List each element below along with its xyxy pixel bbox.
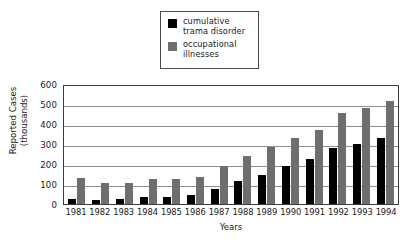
bar <box>211 189 219 204</box>
bar <box>362 108 370 204</box>
x-axis-tick-label: 1994 <box>374 207 398 217</box>
plot-area <box>63 85 399 205</box>
x-axis-tick-label: 1983 <box>112 207 136 217</box>
legend-item-label: occupational illnesses <box>183 40 237 59</box>
x-axis-tick-label: 1991 <box>303 207 327 217</box>
bar-group <box>184 86 208 204</box>
y-axis-tick-label: 500 <box>40 100 57 110</box>
bar <box>68 199 76 204</box>
black-square-icon <box>168 19 177 28</box>
bar-group <box>326 86 350 204</box>
bar <box>306 159 314 204</box>
bar <box>116 199 124 204</box>
bar <box>353 144 361 204</box>
y-axis-tick-label: 0 <box>51 200 57 210</box>
bar-group <box>136 86 160 204</box>
y-axis-tick-label: 600 <box>40 80 57 90</box>
bar-group <box>302 86 326 204</box>
bar-group <box>278 86 302 204</box>
x-axis-tick-label: 1989 <box>255 207 279 217</box>
x-axis-tick-label: 1981 <box>64 207 88 217</box>
x-axis-tick-label: 1982 <box>88 207 112 217</box>
bar-group <box>112 86 136 204</box>
x-axis-tick-label: 1990 <box>279 207 303 217</box>
x-axis-tick-label: 1984 <box>136 207 160 217</box>
x-axis-tick-label: 1988 <box>231 207 255 217</box>
bar <box>125 183 133 204</box>
legend-item-label: cumulative trama disorder <box>183 17 245 36</box>
legend-item-cumulative-trama-disorder: cumulative trama disorder <box>168 17 258 36</box>
bar <box>172 179 180 204</box>
bar <box>234 181 242 204</box>
bar-group <box>350 86 374 204</box>
y-axis-tick-label: 400 <box>40 120 57 130</box>
bar <box>338 113 346 204</box>
x-axis-label: Years <box>63 222 399 232</box>
bar <box>315 130 323 204</box>
bar-group <box>231 86 255 204</box>
bar <box>140 197 148 204</box>
bar-group <box>160 86 184 204</box>
bar <box>77 178 85 204</box>
bar-groups <box>64 86 398 204</box>
bar <box>243 156 251 204</box>
bar <box>196 177 204 204</box>
legend-item-occupational-illnesses: occupational illnesses <box>168 40 258 59</box>
bar <box>92 200 100 204</box>
x-axis-tick-label: 1986 <box>183 207 207 217</box>
bar <box>386 101 394 204</box>
bar <box>329 148 337 204</box>
y-axis-tick-label: 300 <box>40 140 57 150</box>
x-axis-tick-label: 1987 <box>207 207 231 217</box>
bar <box>101 183 109 204</box>
bar <box>377 138 385 204</box>
bar <box>187 195 195 204</box>
bar <box>291 138 299 204</box>
x-axis-ticks: 1981198219831984198519861987198819891990… <box>63 207 399 217</box>
bar <box>163 197 171 204</box>
bar-group <box>373 86 397 204</box>
bar-group <box>255 86 279 204</box>
bar-group <box>65 86 89 204</box>
y-axis-tick-label: 200 <box>40 160 57 170</box>
bar <box>267 147 275 204</box>
gray-square-icon <box>168 42 177 51</box>
bar <box>149 179 157 204</box>
y-axis-label: Reported Cases (thousands) <box>8 75 29 167</box>
chart-legend: cumulative trama disorder occupational i… <box>160 11 259 69</box>
x-axis-tick-label: 1992 <box>326 207 350 217</box>
bar <box>258 175 266 204</box>
y-axis-tick-label: 100 <box>40 180 57 190</box>
x-axis-tick-label: 1993 <box>350 207 374 217</box>
bar <box>220 166 228 204</box>
x-axis-tick-label: 1985 <box>159 207 183 217</box>
bar <box>282 166 290 204</box>
bar-group <box>89 86 113 204</box>
bar-group <box>207 86 231 204</box>
